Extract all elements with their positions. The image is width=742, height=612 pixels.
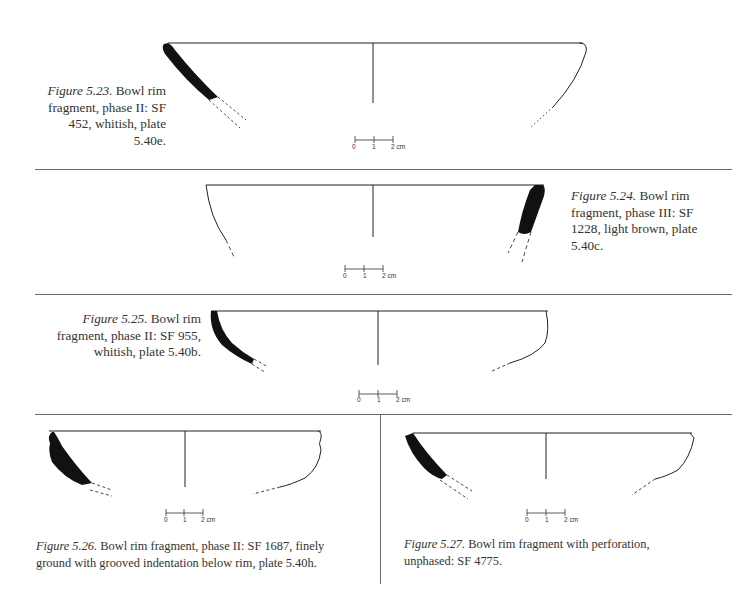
scale-bar <box>527 509 565 516</box>
figure-5-27-bowl-drawing <box>0 0 742 530</box>
figure-5-27-caption: Figure 5.27. Bowl rim fragment with perf… <box>404 536 724 569</box>
figure-label: Figure 5.27. <box>404 537 465 551</box>
figure-5-26-caption: Figure 5.26. Bowl rim fragment, phase II… <box>36 538 376 571</box>
figure-label: Figure 5.26. <box>36 539 97 553</box>
rim-section-fill <box>405 433 447 479</box>
